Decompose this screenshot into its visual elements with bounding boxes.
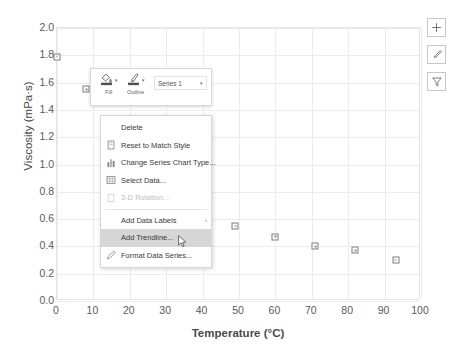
gridline-horizontal bbox=[57, 110, 419, 111]
x-axis-tick-label: 70 bbox=[291, 304, 331, 316]
gridline-vertical bbox=[239, 28, 240, 299]
x-axis-tick-label: 80 bbox=[327, 304, 367, 316]
context-menu-item-label: Format Data Series... bbox=[121, 251, 211, 260]
x-axis-tick-label: 40 bbox=[182, 304, 222, 316]
gridline-vertical bbox=[312, 28, 313, 299]
submenu-arrow-icon: › bbox=[205, 217, 211, 223]
plus-icon bbox=[431, 22, 442, 33]
data-point-marker[interactable] bbox=[312, 243, 319, 250]
context-menu-item-label: Add Data Labels bbox=[121, 216, 205, 225]
gridline-horizontal bbox=[57, 274, 419, 275]
series-selector-value: Series 1 bbox=[158, 80, 182, 87]
fill-bucket-icon bbox=[99, 72, 114, 87]
context-menu-item[interactable]: Format Data Series... bbox=[101, 247, 211, 265]
brush-icon bbox=[431, 49, 443, 61]
chart-elements-button[interactable] bbox=[427, 18, 446, 37]
x-axis-tick-label: 30 bbox=[145, 304, 185, 316]
gridline-vertical bbox=[348, 28, 349, 299]
format-series-icon bbox=[105, 249, 117, 261]
y-axis-tick-label: 0.2 bbox=[4, 267, 54, 279]
chart-styles-button[interactable] bbox=[427, 45, 446, 64]
x-axis-tick-label: 90 bbox=[364, 304, 404, 316]
context-menu-item-label: Change Series Chart Type... bbox=[121, 158, 216, 167]
mouse-cursor-icon bbox=[178, 235, 187, 248]
context-menu-item-label: 3-D Rotation... bbox=[121, 193, 211, 202]
funnel-icon bbox=[431, 76, 443, 88]
data-point-marker[interactable] bbox=[232, 222, 239, 229]
data-point-marker[interactable] bbox=[272, 233, 279, 240]
context-menu-item-label: Delete bbox=[121, 123, 211, 132]
x-axis-title[interactable]: Temperature (°C) bbox=[56, 327, 420, 339]
x-axis-ticks: 0102030405060708090100 bbox=[56, 304, 420, 322]
context-menu[interactable]: DeleteReset to Match StyleChange Series … bbox=[100, 115, 212, 268]
reset-style-icon bbox=[105, 139, 117, 151]
context-menu-item[interactable]: Delete bbox=[101, 119, 211, 137]
context-menu-item-label: Add Trendline... bbox=[121, 233, 211, 242]
x-axis-tick-label: 100 bbox=[400, 304, 440, 316]
rotation-icon bbox=[105, 192, 117, 204]
gridline-horizontal bbox=[57, 55, 419, 56]
fill-label: Fill bbox=[105, 89, 112, 95]
x-axis-tick-label: 0 bbox=[36, 304, 76, 316]
chart-filters-button[interactable] bbox=[427, 72, 446, 91]
fill-caret-icon[interactable]: ▾ bbox=[115, 77, 118, 83]
x-axis-tick-label: 10 bbox=[72, 304, 112, 316]
context-menu-item[interactable]: Add Data Labels› bbox=[101, 212, 211, 230]
x-axis-tick-label: 50 bbox=[218, 304, 258, 316]
gridline-vertical bbox=[275, 28, 276, 299]
gridline-vertical bbox=[57, 28, 58, 299]
data-point-marker[interactable] bbox=[83, 86, 90, 93]
context-menu-item-label: Select Data... bbox=[121, 176, 211, 185]
outline-caret-icon[interactable]: ▾ bbox=[142, 77, 145, 83]
context-menu-item[interactable]: Select Data... bbox=[101, 172, 211, 190]
chevron-down-icon: ▾ bbox=[200, 80, 203, 86]
excel-chart-screen: 0.00.20.40.60.81.01.21.41.61.82.0 010203… bbox=[0, 0, 452, 352]
x-axis-tick-label: 60 bbox=[254, 304, 294, 316]
fill-button[interactable]: ▾ Fill bbox=[96, 71, 121, 95]
chart-title-placeholder[interactable] bbox=[204, 6, 240, 17]
context-menu-item[interactable]: Add Trendline... bbox=[101, 229, 211, 247]
gridline-horizontal bbox=[57, 28, 419, 29]
select-data-icon bbox=[105, 174, 117, 186]
chart-side-buttons bbox=[427, 18, 446, 91]
outline-button[interactable]: ▾ Outline bbox=[121, 71, 150, 95]
mini-toolbar[interactable]: ▾ Fill ▾ Outline Series 1 ▾ bbox=[90, 68, 212, 106]
context-menu-item[interactable]: Change Series Chart Type... bbox=[101, 154, 211, 172]
series-selector-dropdown[interactable]: Series 1 ▾ bbox=[154, 76, 207, 90]
x-axis-tick-label: 20 bbox=[109, 304, 149, 316]
y-axis-tick-label: 0.4 bbox=[4, 239, 54, 251]
context-menu-item[interactable]: Reset to Match Style bbox=[101, 137, 211, 155]
context-menu-item-label: Reset to Match Style bbox=[121, 141, 211, 150]
gridline-vertical bbox=[385, 28, 386, 299]
data-point-marker[interactable] bbox=[392, 257, 399, 264]
y-axis-tick-label: 2.0 bbox=[4, 21, 54, 33]
data-point-marker[interactable] bbox=[54, 53, 61, 60]
chart-type-icon bbox=[105, 157, 117, 169]
data-point-marker[interactable] bbox=[352, 247, 359, 254]
y-axis-tick-label: 0.6 bbox=[4, 212, 54, 224]
gridline-horizontal bbox=[57, 301, 419, 302]
gridline-vertical bbox=[421, 28, 422, 299]
context-menu-item: 3-D Rotation... bbox=[101, 189, 211, 207]
menu-separator bbox=[105, 209, 207, 210]
y-axis-title[interactable]: Viscosity (mPa·s) bbox=[22, 46, 34, 206]
outline-label: Outline bbox=[127, 89, 144, 95]
outline-pen-icon bbox=[126, 72, 141, 87]
